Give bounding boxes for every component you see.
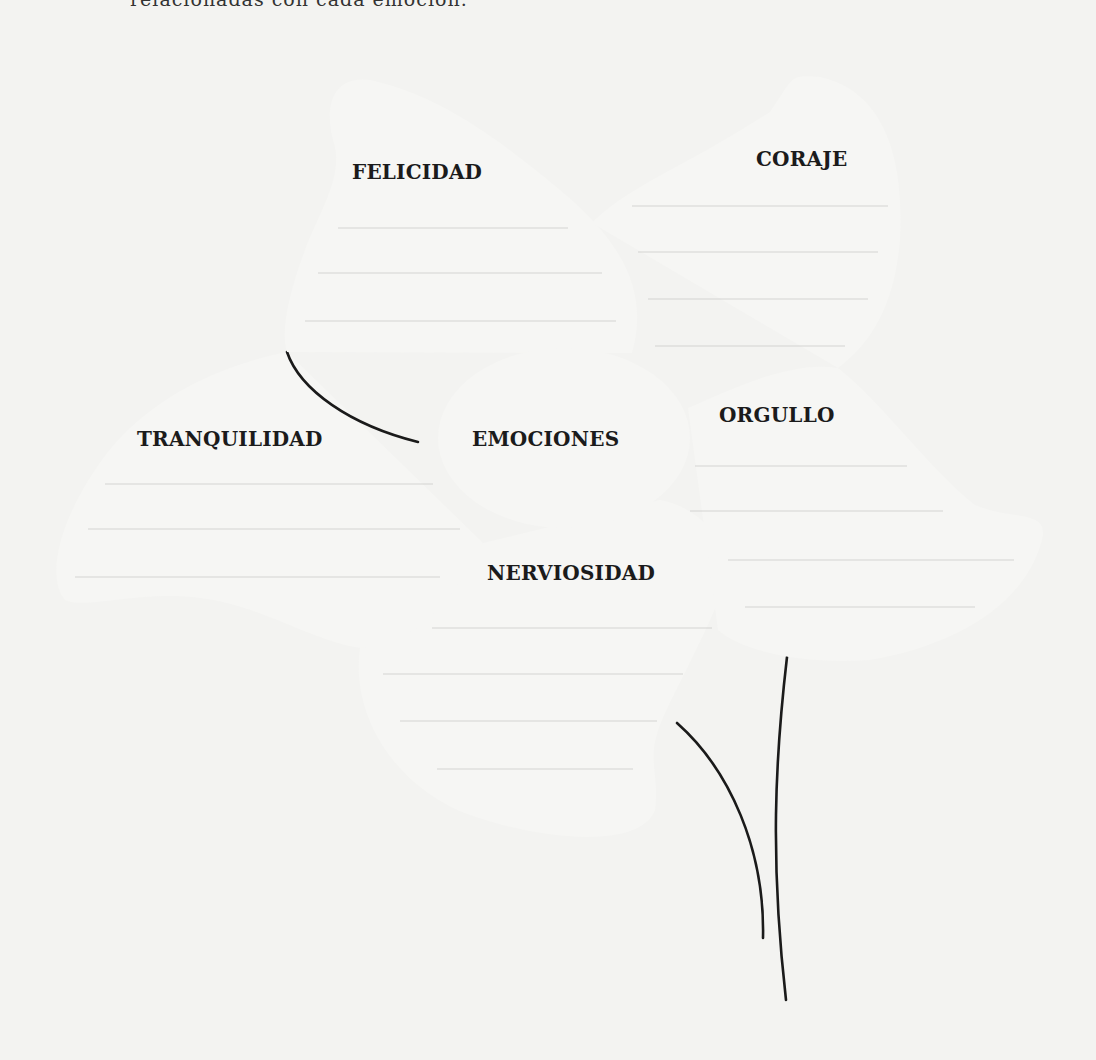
petal-label-nerviosidad: NERVIOSIDAD [487,561,655,585]
petal-label-coraje: CORAJE [756,147,847,171]
petal-label-orgullo: ORGULLO [719,403,835,427]
petal-coraje-shape [592,76,901,368]
stem-main [776,657,787,1000]
petal-label-tranquilidad: TRANQUILIDAD [137,427,323,451]
emotion-flower-diagram [0,0,1096,1060]
center-label-emociones: EMOCIONES [472,427,619,451]
stem-leaf [677,723,763,938]
petal-felicidad-shape [285,80,637,353]
petal-label-felicidad: FELICIDAD [352,160,482,184]
worksheet-page: relacionadas con cada emoción. [0,0,1096,1060]
petal-tranquilidad-shape [56,352,483,648]
